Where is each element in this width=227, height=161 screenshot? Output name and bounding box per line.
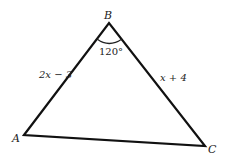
vertex-label-a: A [11,132,20,145]
side-bc-label: x + 4 [160,72,187,83]
side-ab-label: 2x − 3 [38,69,72,80]
angle-b-label: 120° [99,46,123,57]
triangle-diagram: B 120° 2x − 3 x + 4 A C [0,0,227,161]
vertex-label-b: B [103,9,112,22]
angle-b-arc [97,39,122,44]
triangle-svg: B 120° 2x − 3 x + 4 A C [0,0,227,161]
triangle-abc [24,23,205,146]
vertex-label-c: C [208,143,217,156]
